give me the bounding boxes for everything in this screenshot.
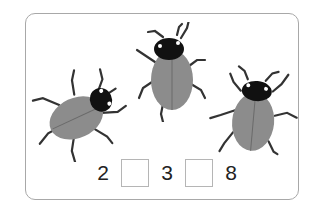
number-second: 3 [160,158,174,188]
beetle-right-icon [205,62,305,162]
beetle-left-icon [25,62,135,162]
equation-row: 2 3 8 [96,158,238,188]
number-first: 2 [96,158,110,188]
beetle-center-icon [133,22,213,122]
number-third: 8 [224,158,238,188]
answer-box-2[interactable] [185,159,213,187]
answer-box-1[interactable] [121,159,149,187]
